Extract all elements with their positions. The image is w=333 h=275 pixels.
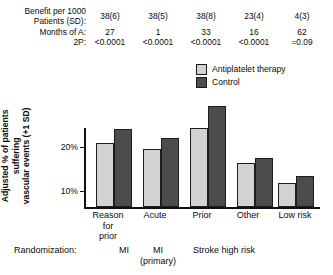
- y-tick-label-10: 10%: [52, 186, 78, 196]
- table-row: 2P: <0.0001 <0.0001 <0.0001 <0.0001 =0.0…: [0, 37, 326, 47]
- bar-chart: Adjusted % of patients suffering vascula…: [0, 86, 333, 214]
- randomization-item-mi: MI: [110, 245, 138, 256]
- stat-cell: <0.0001: [182, 37, 230, 47]
- table-row: Benefit per 1000 Patients (SD): 38(6) 38…: [0, 6, 326, 27]
- stat-cell: 62: [278, 27, 326, 37]
- stat-cell: 1: [134, 27, 182, 37]
- stat-cell: <0.0001: [230, 37, 278, 47]
- stat-cell: 16: [230, 27, 278, 37]
- legend-item-antiplatelet: Antiplatelet therapy: [196, 64, 286, 76]
- randomization-item-mi-primary: MI (primary): [138, 245, 178, 266]
- stat-cell: 23(4): [230, 6, 278, 27]
- stat-cell: 33: [182, 27, 230, 37]
- stats-table-element: Benefit per 1000 Patients (SD): 38(6) 38…: [0, 6, 326, 48]
- figure-root: Benefit per 1000 Patients (SD): 38(6) 38…: [0, 0, 333, 275]
- x-axis-line: [84, 207, 320, 209]
- benefit-label-line1: Benefit per 1000: [0, 6, 86, 16]
- legend-label: Antiplatelet therapy: [212, 64, 286, 76]
- bar-antiplatelet-prior: [190, 128, 208, 207]
- bar-control-reason: [114, 129, 132, 207]
- bar-control-lowrisk: [296, 176, 314, 207]
- y-tick-label-20: 20%: [52, 142, 78, 152]
- bar-control-acute: [161, 138, 179, 207]
- randomization-label: Randomization:: [14, 245, 77, 256]
- stat-cell: 27: [86, 27, 134, 37]
- table-row: Months of A: 27 1 33 16 62: [0, 27, 326, 37]
- statistics-table: Benefit per 1000 Patients (SD): 38(6) 38…: [0, 6, 333, 48]
- bar-antiplatelet-reason: [96, 143, 114, 207]
- row-label-benefit: Benefit per 1000 Patients (SD):: [0, 6, 86, 27]
- stat-cell: <0.0001: [86, 37, 134, 47]
- row-label-months: Months of A:: [0, 27, 86, 37]
- bar-control-other: [255, 158, 273, 207]
- row-label-2p: 2P:: [0, 37, 86, 47]
- bar-control-prior: [208, 106, 226, 207]
- stat-cell: 38(5): [134, 6, 182, 27]
- y-axis-title: Adjusted % of patients suffering vascula…: [0, 94, 32, 218]
- bar-antiplatelet-lowrisk: [278, 183, 296, 207]
- stat-cell: <0.0001: [134, 37, 182, 47]
- stat-cell: =0.09: [278, 37, 326, 47]
- stat-cell: 38(6): [86, 6, 134, 27]
- legend-swatch-icon: [196, 64, 207, 75]
- category-label-lowrisk: Low risk: [264, 210, 326, 221]
- plot-area: [86, 86, 320, 207]
- stat-cell: 38(8): [182, 6, 230, 27]
- bar-antiplatelet-acute: [143, 149, 161, 207]
- stat-cell: 4(3): [278, 6, 326, 27]
- benefit-label-line2: Patients (SD):: [0, 16, 86, 26]
- bar-antiplatelet-other: [237, 163, 255, 207]
- randomization-item-stroke: Stroke high risk: [178, 245, 270, 256]
